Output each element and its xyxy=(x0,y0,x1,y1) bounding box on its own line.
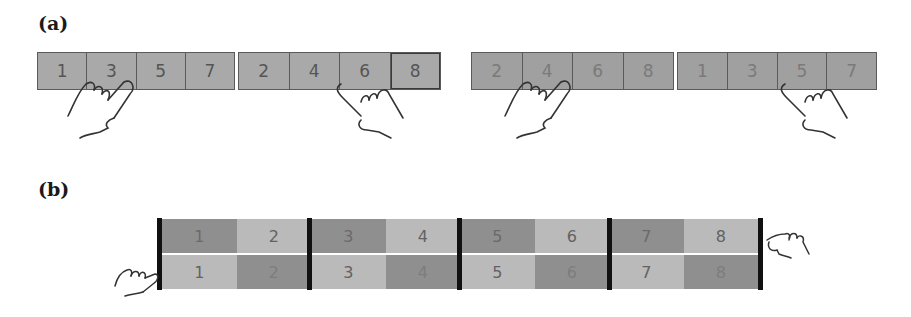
cell[interactable]: 7 xyxy=(609,255,684,289)
hand-pinch-icon xyxy=(64,80,144,140)
cell[interactable]: 7 xyxy=(186,53,234,89)
panel-b-label: (b) xyxy=(38,178,69,200)
cell[interactable]: 3 xyxy=(311,219,386,253)
cell[interactable]: 5 xyxy=(460,219,535,253)
cell[interactable]: 7 xyxy=(609,219,684,253)
hand-pinch-icon xyxy=(501,80,581,140)
separator-bar xyxy=(307,218,312,290)
hand-pinch-icon xyxy=(777,80,857,140)
cell[interactable]: 8 xyxy=(684,219,759,253)
cell[interactable]: 8 xyxy=(684,255,759,289)
separator-bar xyxy=(607,218,612,290)
cell[interactable]: 1 xyxy=(162,219,237,253)
cell[interactable]: 3 xyxy=(728,53,778,89)
cell[interactable]: 4 xyxy=(386,219,461,253)
cell[interactable]: 6 xyxy=(535,255,610,289)
cell[interactable]: 2 xyxy=(237,255,312,289)
two-row-grid: 1 2 3 4 5 6 7 8 1 2 3 4 5 6 7 8 xyxy=(157,218,763,290)
cell[interactable]: 2 xyxy=(237,219,312,253)
cell[interactable]: 1 xyxy=(162,255,237,289)
hand-point-icon xyxy=(113,262,159,298)
hand-pinch-icon xyxy=(333,80,413,140)
cell[interactable]: 3 xyxy=(311,255,386,289)
cell[interactable]: 4 xyxy=(386,255,461,289)
separator-bar xyxy=(457,218,462,290)
cell[interactable]: 2 xyxy=(239,53,290,89)
cell[interactable]: 8 xyxy=(624,53,674,89)
cell[interactable]: 5 xyxy=(460,255,535,289)
panel-a-label: (a) xyxy=(38,12,68,34)
cell[interactable]: 1 xyxy=(678,53,728,89)
cell[interactable]: 6 xyxy=(535,219,610,253)
separator-bar xyxy=(758,218,763,290)
hand-point-icon xyxy=(765,228,811,264)
